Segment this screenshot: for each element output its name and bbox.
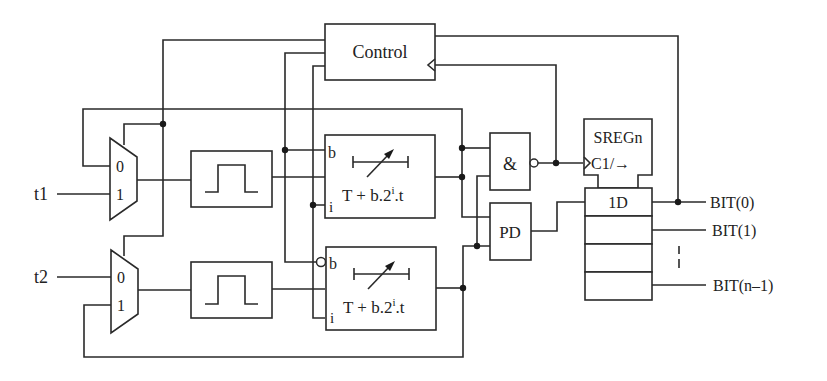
wire-mux1-select: [124, 124, 163, 145]
junction-dot: [282, 147, 288, 153]
mux-bottom-in1-label: 1: [117, 297, 125, 314]
tdc-circuit-diagram: Control 0 1 0 1 t1 t2 b i T + b.2i.t: [0, 0, 827, 381]
pulse-generator-top: [191, 151, 272, 207]
mux-top: 0 1: [110, 138, 137, 220]
output-bit0-label: BIT(0): [710, 194, 754, 212]
output-bit1-label: BIT(1): [712, 222, 756, 240]
mux-top-in0-label: 0: [116, 158, 124, 175]
wire-control-b: [285, 53, 325, 150]
pulse-generator-bottom: [191, 262, 272, 318]
delay-formula: T + b.2i.t: [342, 184, 404, 205]
junction-dot: [460, 285, 466, 291]
mux-bottom: 0 1: [111, 250, 138, 333]
wire-pd-in2: [463, 246, 490, 288]
delay-line-bottom: b i T + b.2i.t: [317, 247, 437, 330]
phase-detector: PD: [490, 203, 531, 260]
sreg-clock-label: C1/→: [591, 155, 630, 172]
control-block: Control: [325, 24, 435, 80]
port-b-label: b: [328, 144, 336, 161]
inverting-input-bubble: [317, 258, 326, 267]
wire-pd-sreg-data: [530, 202, 585, 231]
junction-dot: [160, 121, 166, 127]
junction-dot: [459, 174, 465, 180]
port-i-label: i: [329, 199, 333, 215]
input-t2-label: t2: [34, 267, 48, 287]
junction-dot: [459, 145, 465, 151]
nand-gate: &: [490, 133, 538, 190]
mux-top-in1-label: 1: [116, 186, 124, 203]
port-i-label: i: [330, 310, 334, 326]
sreg-cell-1: [585, 216, 652, 244]
junction-dot: [553, 160, 559, 166]
shift-register: SREGn C1/→ 1D: [584, 119, 652, 300]
mux-bottom-in0-label: 0: [117, 269, 125, 286]
input-t1-label: t1: [34, 184, 48, 204]
junction-dot: [310, 202, 316, 208]
delay-formula: T + b.2i.t: [343, 296, 405, 317]
phase-detector-label: PD: [499, 223, 521, 242]
port-b-label: b: [329, 255, 337, 272]
sreg-data-label: 1D: [608, 194, 628, 211]
wire-pd-in1: [462, 177, 490, 217]
junction-dot: [675, 199, 681, 205]
inverting-output-bubble: [530, 159, 538, 167]
delay-line-top: b i T + b.2i.t: [325, 135, 435, 218]
and-gate-label: &: [503, 154, 517, 174]
junction-dot: [474, 243, 480, 249]
wire-and-in2: [477, 176, 490, 246]
sreg-title: SREGn: [594, 129, 643, 146]
output-bitn-label: BIT(n–1): [713, 277, 773, 295]
sreg-cell-3: [585, 272, 652, 300]
wire-control-i: [313, 66, 325, 205]
control-label: Control: [352, 42, 407, 62]
sreg-cell-2: [585, 244, 652, 272]
